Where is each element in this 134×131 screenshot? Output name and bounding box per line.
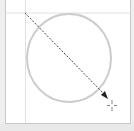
dashed-arrow-line[interactable]: [25, 13, 104, 94]
canvas-overlay[interactable]: [0, 0, 134, 131]
crosshair-icon: [107, 100, 117, 111]
